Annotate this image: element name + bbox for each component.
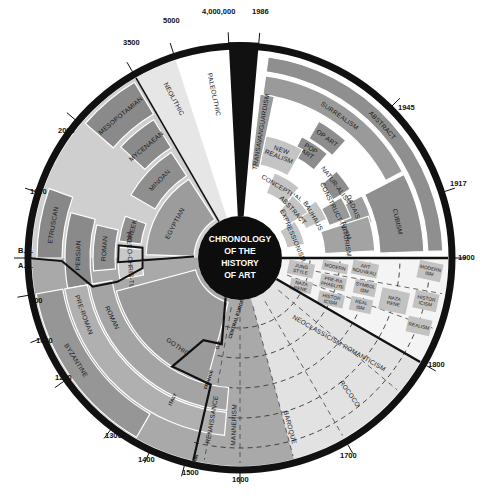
tick-mark [127,62,133,72]
tick-mark [67,113,75,120]
tick-label: 2000 [58,126,75,135]
tick-label: 1200 [55,373,72,382]
tick-label: 1000 [36,336,53,345]
tick-label: 500 [30,296,43,305]
title-line-1: CHRONOLOGY [209,234,272,244]
title-line-3: HISTORY [221,258,259,268]
tick-label: 1900 [458,253,475,262]
tick-label: B.C. [18,246,33,255]
tick-mark [228,32,229,43]
tick-label: 1600 [232,475,249,484]
tick-label: 4,000,000 [202,7,235,16]
chronology-diagram: ABSTRACTSURREALISMCUBISMDADAISMFUTURISMO… [0,0,481,503]
tick-label: 1500 [182,468,199,477]
tick-label: 3500 [123,38,140,47]
tick-label: 1700 [340,451,357,460]
title-line-4: OF ART [224,270,256,280]
tick-mark [444,188,454,191]
tick-label: A.D. [18,261,33,270]
baroque-labels-label: MANNERISM [229,404,237,446]
tick-label: 1000 [30,187,47,196]
tick-label: 1945 [398,103,415,112]
tick-mark [17,295,28,297]
tick-label: 5000 [163,16,180,25]
center-title-disc: CHRONOLOGY OF THE HISTORY OF ART [198,216,282,300]
tick-mark [170,43,173,53]
persian-band-label: PERSIAN [74,240,82,270]
tick-label: 1917 [450,179,467,188]
tick-label: 1986 [252,7,269,16]
roman-ancient-band: ROMAN [93,225,118,271]
chronology-wheel: ABSTRACTSURREALISMCUBISMDADAISMFUTURISMO… [0,0,481,503]
tick-mark [55,381,64,387]
tick-label: 1400 [138,455,155,464]
tick-label: 1800 [428,360,445,369]
tick-mark [259,33,260,44]
tick-label: 1300 [105,431,122,440]
title-line-2: OF THE [224,246,256,256]
